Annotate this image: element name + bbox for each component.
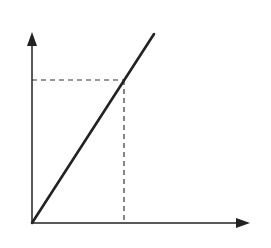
diagram-canvas xyxy=(0,0,271,248)
